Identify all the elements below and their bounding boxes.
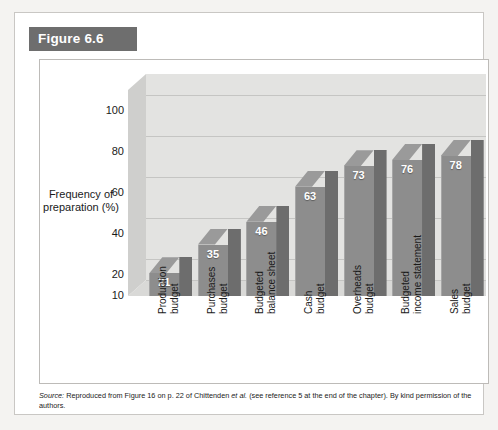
x-axis-label-line: budget (315, 300, 327, 314)
x-axis-label-rotated: Purchasesbudget (206, 300, 229, 314)
bar-side-face (276, 206, 289, 296)
bar: 63 (295, 187, 325, 296)
bar-side-face (471, 140, 484, 296)
plot-area: 21354663737678 (128, 74, 486, 296)
x-axis-label-line: budget (460, 300, 472, 314)
bar-side-face (374, 150, 387, 296)
chart-side-wall (128, 74, 146, 296)
x-axis-label-line: Cash (303, 300, 315, 314)
page-background: Figure 6.6 Frequency of preparation (%) … (0, 0, 498, 430)
bar-value-label: 76 (392, 164, 422, 175)
x-axis-label-rotated: Budgetedincome statement (400, 300, 423, 314)
caption-etal: et al. (231, 391, 247, 400)
y-axis-tick-labels: 1008060402010 (40, 74, 124, 296)
x-axis-label: Overheadsbudget (352, 300, 366, 323)
figure-card: Figure 6.6 Frequency of preparation (%) … (14, 12, 484, 415)
y-tick-80: 80 (112, 146, 124, 157)
x-axis-label-line: budget (217, 300, 229, 314)
x-axis-label-line: income statement (412, 300, 424, 314)
chart-frame: Frequency of preparation (%) 10080604020… (39, 59, 489, 384)
x-axis-label: Purchasesbudget (206, 300, 220, 323)
x-axis-label-line: Sales (449, 300, 461, 314)
bar-value-label: 63 (295, 191, 325, 202)
x-axis-label-line: Overheads (352, 300, 364, 314)
bar-side-face (422, 144, 435, 296)
x-axis-label: Salesbudget (449, 300, 463, 323)
x-axis-label-rotated: Productionbudget (157, 300, 180, 314)
bar-side-face (228, 229, 241, 297)
bar-front-face (295, 187, 326, 296)
x-axis-label: Cashbudget (303, 300, 317, 323)
x-axis-label-line: budget (169, 300, 181, 314)
figure-title-banner: Figure 6.6 (29, 27, 137, 51)
gridline-80 (146, 136, 486, 137)
x-axis-label-line: Production (157, 300, 169, 314)
x-axis-label-rotated: Cashbudget (303, 300, 326, 314)
bar: 78 (441, 156, 471, 296)
x-axis-label: Budgetedincome statement (400, 300, 414, 323)
bar-value-label: 73 (344, 170, 374, 181)
x-axis-label: Productionbudget (157, 300, 171, 323)
caption-text-part1: Reproduced from Figure 16 on p. 22 of Ch… (64, 391, 231, 400)
gridline-100 (146, 95, 486, 96)
x-axis-label-line: Budgeted (400, 300, 412, 314)
x-axis-label-line: Budgeted (254, 300, 266, 314)
x-axis-label-line: budget (363, 300, 375, 314)
x-axis-category-labels: ProductionbudgetPurchasesbudgetBudgetedb… (128, 300, 486, 382)
bar-value-label: 35 (198, 249, 228, 260)
y-tick-100: 100 (106, 105, 124, 116)
x-axis-label-rotated: Overheadsbudget (352, 300, 375, 314)
y-tick-60: 60 (112, 187, 124, 198)
x-axis-label-rotated: Salesbudget (449, 300, 472, 314)
page-title: Figure 6.6 (38, 32, 104, 46)
x-axis-label: Budgetedbalance sheet (254, 300, 268, 323)
y-tick-40: 40 (112, 228, 124, 239)
bar-value-label: 46 (246, 226, 276, 237)
x-axis-label-line: balance sheet (266, 300, 278, 314)
y-tick-20: 20 (112, 269, 124, 280)
bar-front-face (441, 156, 472, 296)
caption-source-word: Source: (39, 391, 64, 400)
x-axis-label-line: Purchases (206, 300, 218, 314)
y-tick-10: 10 (112, 290, 124, 301)
x-axis-label-rotated: Budgetedbalance sheet (254, 300, 277, 314)
figure-source-caption: Source: Reproduced from Figure 16 on p. … (39, 391, 491, 410)
bar-value-label: 78 (441, 160, 471, 171)
bar-side-face (325, 171, 338, 296)
bar-side-face (179, 257, 192, 296)
